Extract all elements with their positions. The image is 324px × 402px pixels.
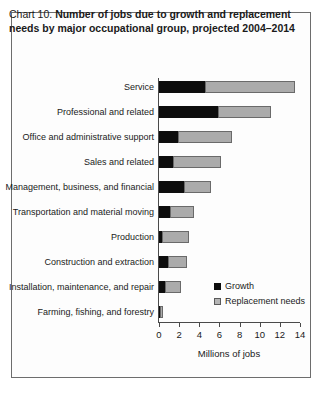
legend-item-growth: Growth xyxy=(214,281,305,291)
bar-segment-growth xyxy=(159,106,218,118)
bar-row: Production xyxy=(0,231,324,243)
legend-item-replacement: Replacement needs xyxy=(214,296,305,306)
bar-segments xyxy=(159,306,164,318)
x-axis-title: Millions of jobs xyxy=(158,348,300,359)
bar-segment-replacement xyxy=(160,306,163,318)
bar-segment-replacement xyxy=(178,131,231,143)
bar-segment-growth xyxy=(159,131,178,143)
x-axis-tick xyxy=(179,323,180,327)
bar-segment-growth xyxy=(159,181,184,193)
chart-legend: GrowthReplacement needs xyxy=(214,281,305,311)
bar-segment-replacement xyxy=(168,256,187,268)
bar-segments xyxy=(159,156,223,168)
x-axis-tick xyxy=(240,323,241,327)
bar-segment-replacement xyxy=(165,281,181,293)
bar-segments xyxy=(159,81,297,93)
x-axis-tick xyxy=(219,323,220,327)
chart-plot-area: ServiceProfessional and relatedOffice an… xyxy=(0,0,324,402)
bar-segment-growth xyxy=(159,256,168,268)
bar-row: Construction and extraction xyxy=(0,256,324,268)
bar-segment-replacement xyxy=(184,181,211,193)
bar-segments xyxy=(159,256,189,268)
legend-swatch-icon xyxy=(214,283,221,290)
bar-row-label: Service xyxy=(124,81,154,93)
bar-segments xyxy=(159,106,273,118)
x-axis-tick-label: 6 xyxy=(217,329,222,340)
bar-row: Office and administrative support xyxy=(0,131,324,143)
x-axis-tick xyxy=(300,323,301,327)
bar-row-label: Farming, fishing, and forestry xyxy=(37,306,154,318)
x-axis-tick xyxy=(199,323,200,327)
x-axis-tick-label: 14 xyxy=(295,329,306,340)
bar-row: Professional and related xyxy=(0,106,324,118)
bar-segments xyxy=(159,281,183,293)
x-axis-tick-label: 2 xyxy=(176,329,181,340)
bar-segment-growth xyxy=(159,81,205,93)
legend-item-label: Growth xyxy=(225,281,254,291)
bar-row: Management, business, and financial xyxy=(0,181,324,193)
x-axis-tick-label: 0 xyxy=(156,329,161,340)
bar-row: Sales and related xyxy=(0,156,324,168)
bar-segment-growth xyxy=(159,206,170,218)
bar-segments xyxy=(159,131,234,143)
bar-row: Transportation and material moving xyxy=(0,206,324,218)
x-axis-tick-label: 4 xyxy=(197,329,202,340)
bar-segments xyxy=(159,231,191,243)
bar-segment-replacement xyxy=(218,106,270,118)
x-axis-tick xyxy=(159,323,160,327)
bar-segments xyxy=(159,206,196,218)
bar-row-label: Installation, maintenance, and repair xyxy=(9,281,154,293)
x-axis-tick-label: 12 xyxy=(275,329,286,340)
bar-row-label: Management, business, and financial xyxy=(5,181,154,193)
bar-segment-growth xyxy=(159,156,173,168)
x-axis-tick xyxy=(260,323,261,327)
bar-segment-replacement xyxy=(162,231,189,243)
x-axis-tick-label: 10 xyxy=(254,329,265,340)
x-axis-tick xyxy=(280,323,281,327)
bar-row-label: Construction and extraction xyxy=(44,256,154,268)
bar-segment-replacement xyxy=(173,156,221,168)
x-axis-tick-label: 8 xyxy=(237,329,242,340)
legend-item-label: Replacement needs xyxy=(225,296,305,306)
bar-segment-replacement xyxy=(170,206,194,218)
bar-row: Service xyxy=(0,81,324,93)
bar-row-label: Professional and related xyxy=(57,106,154,118)
bar-row-label: Transportation and material moving xyxy=(13,206,154,218)
bar-segment-replacement xyxy=(205,81,295,93)
bar-row-label: Office and administrative support xyxy=(23,131,154,143)
legend-swatch-icon xyxy=(214,298,221,305)
bar-row-label: Sales and related xyxy=(84,156,154,168)
bar-segments xyxy=(159,181,213,193)
bar-row-label: Production xyxy=(111,231,154,243)
